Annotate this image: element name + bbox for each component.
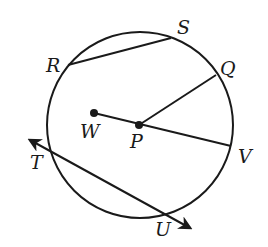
- point-P: [135, 121, 143, 129]
- segment-WV: [94, 113, 231, 146]
- line-TU: [30, 140, 190, 228]
- label-W: W: [80, 120, 101, 142]
- label-P: P: [129, 130, 144, 152]
- label-T: T: [30, 151, 44, 173]
- point-W: [90, 109, 98, 117]
- label-R: R: [45, 54, 60, 76]
- label-V: V: [238, 145, 254, 167]
- segment-PQ: [139, 75, 216, 125]
- label-S: S: [177, 16, 190, 38]
- label-U: U: [155, 218, 172, 240]
- label-Q: Q: [220, 57, 236, 79]
- circle-diagram: R S Q W P T V U: [0, 0, 268, 247]
